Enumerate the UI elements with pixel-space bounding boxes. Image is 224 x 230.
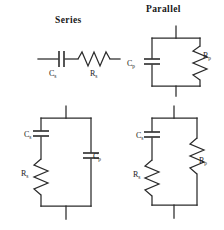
label-cs-series: Cs: [49, 70, 56, 78]
label-cs-bottom-left: Cs: [24, 131, 31, 139]
label-rs-bottom-right: Rs: [133, 171, 140, 179]
heading-series: Series: [55, 15, 82, 25]
heading-parallel: Parallel: [146, 4, 181, 14]
parallel-circuit-drawing: [140, 24, 210, 98]
label-rs-bottom-left: Rs: [21, 170, 28, 178]
series-cs-rs-parallel-rp-circuit-drawing: [142, 104, 222, 222]
label-rs-series-subscript: s: [95, 73, 97, 79]
label-rs-series: Rs: [90, 70, 97, 78]
label-cs-bottom-right-subscript: s: [141, 135, 143, 141]
series-resistor-zigzag: [78, 52, 110, 66]
label-cp-bottom-left: Cp: [93, 153, 101, 161]
series-cs-rs-parallel-cp-circuit-drawing: [30, 104, 110, 222]
label-rs-bottom-right-subscript: s: [138, 174, 140, 180]
br-rs-resistor-zigzag: [145, 160, 159, 196]
series-circuit-drawing: [36, 48, 122, 70]
label-cs-bottom-left-subscript: s: [29, 134, 31, 140]
bl-rs-resistor-zigzag: [34, 159, 48, 195]
label-rp-parallel: Rp: [203, 52, 211, 60]
label-rp-parallel-subscript: p: [208, 55, 211, 61]
label-rp-bottom-right: Rp: [199, 157, 207, 165]
label-cp-parallel: Cp: [127, 60, 135, 68]
label-cs-bottom-right: Cs: [136, 132, 143, 140]
label-rs-bottom-left-subscript: s: [26, 173, 28, 179]
label-cp-parallel-subscript: p: [132, 63, 135, 69]
circuit-diagram-figure: Series Parallel Cs Rs: [0, 0, 224, 230]
label-rp-bottom-right-subscript: p: [204, 160, 207, 166]
label-cp-bottom-left-subscript: p: [98, 156, 101, 162]
label-cs-series-subscript: s: [54, 73, 56, 79]
